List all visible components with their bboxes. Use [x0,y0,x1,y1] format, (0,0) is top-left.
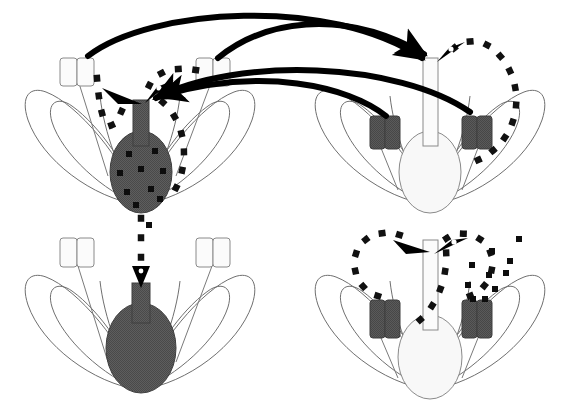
pollination-diagram [0,0,571,408]
figure-canvas [0,0,571,408]
